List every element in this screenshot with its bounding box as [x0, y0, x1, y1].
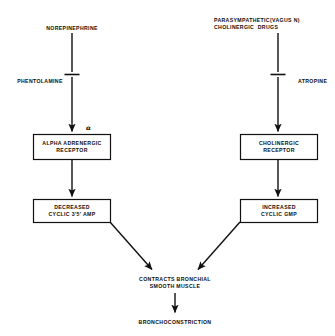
label-parasympathetic-cholinergic-line-2: CHOLINERGIC DRUGS — [214, 24, 278, 31]
label-bronchoconstriction: BRONCHOCONSTRICTION — [112, 318, 238, 327]
label-parasympathetic-cholinergic-line-1: PARASYMPATHETIC(VAGUS N) — [214, 17, 300, 24]
label-norepinephrine-line-1: NOREPINEPHRINE — [46, 25, 98, 32]
label-alpha-adrenergic-receptor-line-1: ALPHA ADRENERGIC — [42, 140, 101, 147]
label-phentolamine: PHENTOLAMINE — [10, 72, 62, 90]
connector-cgmp-to-contraction — [198, 222, 240, 270]
connector-camp-to-contraction — [110, 222, 152, 270]
label-cholinergic-receptor: CHOLINERGIC RECEPTOR — [241, 135, 318, 160]
label-cholinergic-receptor-line-1: CHOLINERGIC — [259, 140, 299, 147]
label-bronchoconstriction-line-1: BRONCHOCONSTRICTION — [139, 319, 212, 326]
label-decreased-cyclic-amp-line-1: DECREASED — [54, 204, 90, 211]
label-norepinephrine: NOREPINEPHRINE — [22, 24, 122, 33]
label-increased-cyclic-gmp-line-2: CYCLIC GMP — [261, 211, 297, 218]
label-increased-cyclic-gmp-line-1: INCREASED — [262, 204, 296, 211]
label-contracts-bronchial-smooth-muscle: CONTRACTS BRONCHIAL SMOOTH MUSCLE — [112, 275, 238, 291]
label-parasympathetic-cholinergic: PARASYMPATHETIC(VAGUS N) CHOLINERGIC DRU… — [214, 16, 335, 32]
label-alpha-adrenergic-receptor-line-2: RECEPTOR — [56, 147, 88, 154]
label-atropine: ATROPINE — [291, 72, 335, 90]
label-alpha-adrenergic-receptor: ALPHA ADRENERGIC RECEPTOR — [34, 135, 111, 160]
label-contracts-bronchial-smooth-muscle-line-2: SMOOTH MUSCLE — [150, 283, 201, 290]
label-contracts-bronchial-smooth-muscle-line-1: CONTRACTS BRONCHIAL — [139, 276, 211, 283]
label-decreased-cyclic-amp: DECREASED CYCLIC 3'5' AMP — [34, 200, 111, 223]
label-decreased-cyclic-amp-line-2: CYCLIC 3'5' AMP — [48, 211, 95, 218]
label-atropine-text: ATROPINE — [298, 78, 327, 84]
alpha-receptor-symbol-glyph: α — [86, 124, 91, 132]
label-phentolamine-text: PHENTOLAMINE — [17, 78, 63, 84]
pathway-diagram: NOREPINEPHRINE PHENTOLAMINE α ALPHA ADRE… — [0, 0, 335, 336]
label-cholinergic-receptor-line-2: RECEPTOR — [263, 147, 295, 154]
label-increased-cyclic-gmp: INCREASED CYCLIC GMP — [241, 200, 318, 223]
